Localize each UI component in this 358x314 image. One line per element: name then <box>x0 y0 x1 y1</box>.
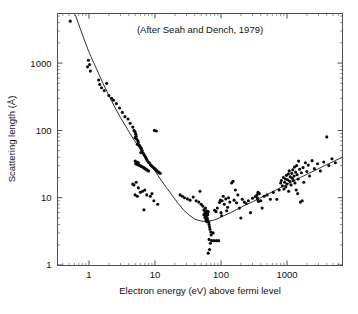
data-point <box>280 179 283 182</box>
data-point <box>249 211 252 214</box>
data-point <box>123 115 126 118</box>
data-point <box>330 157 333 160</box>
data-point <box>152 199 155 202</box>
x-tick-label: 1 <box>86 269 91 280</box>
x-tick-label: 1000 <box>276 269 297 280</box>
data-point <box>100 86 103 89</box>
x-tick-label: 10 <box>150 269 161 280</box>
data-point <box>247 199 250 202</box>
data-point <box>155 129 158 132</box>
data-point <box>103 89 106 92</box>
data-point <box>156 203 159 206</box>
data-point <box>288 180 291 183</box>
data-point <box>216 207 219 210</box>
data-point <box>259 199 262 202</box>
data-point <box>209 242 212 245</box>
data-point <box>236 193 239 196</box>
data-point <box>231 180 234 183</box>
data-point <box>284 185 287 188</box>
data-point <box>290 172 293 175</box>
data-point <box>212 231 215 234</box>
data-point <box>295 188 298 191</box>
data-point <box>302 181 305 184</box>
data-point <box>201 205 204 208</box>
data-point <box>234 188 237 191</box>
data-point <box>293 182 296 185</box>
data-point <box>208 228 211 231</box>
data-point <box>311 159 314 162</box>
y-tick-label: 10 <box>41 192 52 203</box>
data-point <box>115 102 118 105</box>
data-point <box>316 162 319 165</box>
data-point <box>205 220 208 223</box>
data-point <box>266 193 269 196</box>
data-point <box>150 192 153 195</box>
scattering-length-figure: 11010010001101001000 (After Seah and Den… <box>0 0 358 314</box>
data-point <box>208 248 211 251</box>
data-point <box>289 183 292 186</box>
data-point <box>186 197 189 200</box>
data-point <box>69 20 72 23</box>
data-point <box>305 170 308 173</box>
data-point <box>235 201 238 204</box>
data-point <box>245 202 248 205</box>
data-point <box>87 59 90 62</box>
data-point <box>137 186 140 189</box>
data-point <box>225 209 228 212</box>
data-point <box>147 169 150 172</box>
y-tick-label: 1000 <box>30 58 51 69</box>
data-point <box>226 206 229 209</box>
data-point <box>291 168 294 171</box>
data-point <box>251 197 254 200</box>
data-point <box>285 182 288 185</box>
data-point <box>334 161 337 164</box>
data-point <box>304 161 307 164</box>
data-point <box>105 82 108 85</box>
data-point <box>159 172 162 175</box>
data-point <box>142 208 145 211</box>
data-point <box>296 173 299 176</box>
data-point <box>301 199 304 202</box>
data-point <box>269 198 272 201</box>
data-point <box>322 160 325 163</box>
y-tick-label: 1 <box>46 259 51 270</box>
y-tick-label: 100 <box>36 125 52 136</box>
x-axis-label: Electron energy (eV) above fermi level <box>119 285 281 296</box>
data-point <box>219 211 222 214</box>
data-point <box>131 126 134 129</box>
data-point <box>206 213 209 216</box>
data-point <box>88 63 91 66</box>
data-point <box>192 196 195 199</box>
data-point <box>223 203 226 206</box>
data-point <box>327 164 330 167</box>
data-point <box>121 111 124 114</box>
data-point <box>325 135 328 138</box>
data-point <box>145 193 148 196</box>
data-point <box>287 172 290 175</box>
data-point <box>207 252 210 255</box>
plot-background <box>0 0 358 314</box>
annotation-seah-dench: (After Seah and Dench, 1979) <box>137 24 263 35</box>
data-point <box>136 195 139 198</box>
data-point <box>197 201 200 204</box>
data-point <box>189 199 192 202</box>
data-point <box>308 174 311 177</box>
data-point <box>221 199 224 202</box>
data-point <box>281 184 284 187</box>
data-point <box>143 188 146 191</box>
data-point <box>107 94 110 97</box>
data-point <box>261 207 264 210</box>
data-point <box>129 122 132 125</box>
data-point <box>198 190 201 193</box>
data-point <box>258 192 261 195</box>
data-point <box>293 174 296 177</box>
data-point <box>301 166 304 169</box>
data-point <box>272 191 275 194</box>
data-point <box>207 210 210 213</box>
data-point <box>227 196 230 199</box>
data-point <box>97 79 100 82</box>
data-point <box>298 168 301 171</box>
data-point <box>183 196 186 199</box>
data-point <box>224 197 227 200</box>
data-point <box>313 167 316 170</box>
